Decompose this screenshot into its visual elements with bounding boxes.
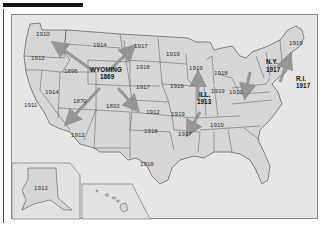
svg-text:1919: 1919 (210, 121, 224, 128)
svg-text:1917: 1917 (178, 130, 192, 137)
svg-text:1919: 1919 (289, 39, 303, 46)
svg-text:1919: 1919 (166, 50, 180, 57)
svg-text:1869: 1869 (100, 73, 115, 80)
svg-text:1911: 1911 (24, 101, 38, 108)
svg-text:1918: 1918 (214, 69, 228, 76)
svg-text:1919: 1919 (189, 64, 203, 71)
svg-text:N.Y.: N.Y. (266, 58, 278, 65)
svg-text:1919: 1919 (171, 110, 185, 117)
svg-text:1919: 1919 (229, 88, 243, 95)
svg-text:1917: 1917 (266, 66, 281, 73)
svg-text:1912: 1912 (146, 108, 160, 115)
contiguous-us-shape (24, 23, 304, 184)
svg-text:1893: 1893 (106, 102, 120, 109)
svg-text:1913: 1913 (34, 184, 48, 191)
svg-text:1917: 1917 (296, 82, 311, 89)
svg-text:1896: 1896 (64, 67, 78, 74)
svg-text:1914: 1914 (45, 88, 59, 95)
svg-text:1913: 1913 (197, 98, 212, 105)
svg-text:1870: 1870 (73, 97, 87, 104)
svg-text:1917: 1917 (134, 42, 148, 49)
svg-text:1918: 1918 (144, 127, 158, 134)
svg-text:ILL.: ILL. (199, 91, 211, 98)
svg-text:1917: 1917 (136, 83, 150, 90)
svg-text:1912: 1912 (71, 131, 85, 138)
hawaii-inset-frame (82, 184, 150, 219)
svg-text:1919: 1919 (211, 87, 225, 94)
us-suffrage-map: 1910 1912 1911 1914 1896 1914 1870 1912 … (0, 0, 326, 226)
svg-text:1919: 1919 (170, 82, 184, 89)
svg-text:1918: 1918 (136, 63, 150, 70)
svg-text:1910: 1910 (36, 30, 50, 37)
svg-text:1918: 1918 (140, 160, 154, 167)
svg-text:1912: 1912 (31, 54, 45, 61)
svg-text:R.I.: R.I. (296, 75, 306, 82)
svg-text:WYOMING: WYOMING (90, 66, 122, 73)
svg-text:1914: 1914 (93, 41, 107, 48)
